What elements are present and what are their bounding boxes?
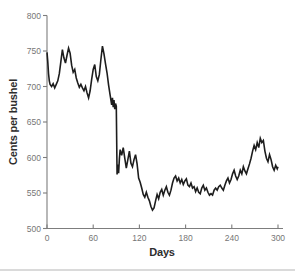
x-tick-label: 0 [45, 233, 50, 243]
plot-axes [47, 16, 283, 229]
x-tick-label: 120 [132, 233, 146, 243]
chart-figure: 500550600650700750800060120180240300 Day… [0, 0, 295, 274]
axis-tick-labels: 500550600650700750800060120180240300 [27, 11, 286, 244]
x-tick-label: 180 [179, 233, 193, 243]
axis-ticks [43, 16, 278, 229]
x-tick-label: 240 [225, 233, 239, 243]
y-tick-label: 800 [27, 11, 41, 21]
y-axis-title: Cents per bushel [7, 79, 19, 165]
y-tick-label: 650 [27, 117, 41, 127]
y-tick-label: 500 [27, 224, 41, 234]
price-line [47, 46, 278, 210]
x-tick-label: 300 [271, 233, 285, 243]
y-tick-label: 600 [27, 153, 41, 163]
x-tick-label: 60 [88, 233, 98, 243]
y-tick-label: 550 [27, 188, 41, 198]
page-edge-rule [0, 269, 295, 271]
y-tick-label: 700 [27, 82, 41, 92]
x-axis-title: Days [149, 246, 175, 258]
price-line-chart: 500550600650700750800060120180240300 Day… [0, 0, 295, 274]
y-tick-label: 750 [27, 46, 41, 56]
